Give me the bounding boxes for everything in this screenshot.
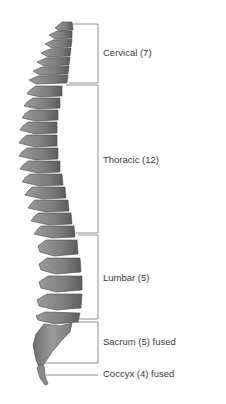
cervical-bracket [69, 24, 98, 83]
label-thoracic: Thoracic (12) [103, 154, 159, 165]
label-cervical: Cervical (7) [103, 47, 152, 58]
thoracic-bracket [66, 85, 98, 233]
cervical-vertebrae [29, 22, 73, 84]
label-coccyx: Coccyx (4) fused [103, 368, 174, 379]
vertebral-column [19, 22, 82, 385]
coccyx-bone [37, 364, 48, 385]
label-lumbar: Lumbar (5) [103, 272, 149, 283]
lumbar-vertebrae [36, 240, 82, 324]
label-sacrum: Sacrum (5) fused [103, 336, 176, 347]
thoracic-vertebrae [19, 86, 75, 238]
